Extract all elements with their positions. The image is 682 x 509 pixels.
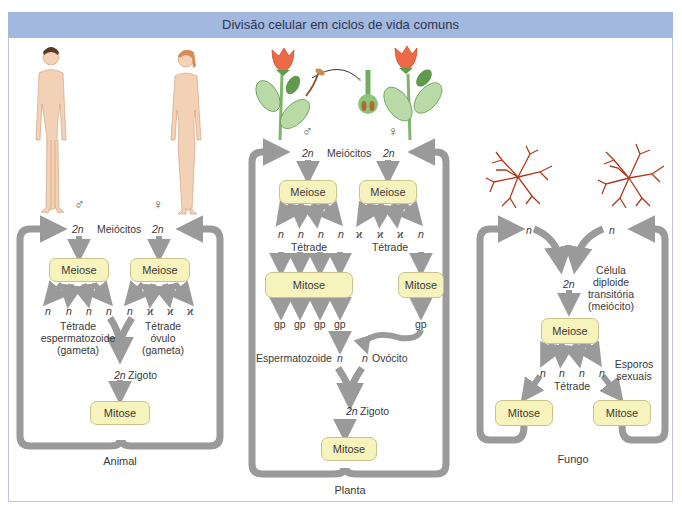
plant-female-meiose-box: Meiose	[359, 180, 417, 204]
fungus-haploid: n	[559, 367, 565, 379]
polar-body: ϰ	[147, 305, 153, 317]
fungus-diploid-l4: (meiócito)	[588, 300, 634, 312]
animal-female-2n: 2n	[152, 223, 164, 235]
animal-haploid: n	[86, 305, 92, 317]
plant-haploid: n	[338, 228, 344, 240]
female-human-figure-icon	[171, 50, 201, 214]
plant-sperm-n: n	[337, 352, 343, 364]
male-symbol: ♂	[74, 196, 85, 212]
plant-egg-n: n	[362, 352, 368, 364]
plant-meiocytes-label: Meiócitos	[327, 147, 371, 159]
plant-female-2n: 2n	[383, 147, 395, 159]
fungus-haploid: n	[579, 367, 585, 379]
plant-gp: gp	[294, 318, 306, 330]
animal-male-tetrad-l3: (gameta)	[57, 344, 99, 356]
female-symbol: ♀	[153, 196, 164, 212]
plant-gp: gp	[274, 318, 286, 330]
plant-haploid: n	[298, 228, 304, 240]
fungus-left-mitose-box: Mitose	[495, 400, 553, 426]
pollen-grain-icon	[306, 67, 326, 96]
plant-haploid: n	[278, 228, 284, 240]
plant-female-mitose-box: Mitose	[398, 272, 444, 298]
fungus-haploid: n	[540, 367, 546, 379]
diagram-graphics	[0, 0, 682, 509]
plant-gp: gp	[334, 318, 346, 330]
fungus-caption: Fungo	[557, 453, 588, 465]
animal-zygote-2n: 2n	[114, 369, 126, 381]
animal-female-tetrad-l1: Tétrade	[145, 320, 181, 332]
plant-egg-label: Ovócito	[372, 352, 408, 364]
plant-male-mitose-box: Mitose	[265, 272, 353, 298]
fungus-left-n: n	[526, 224, 532, 236]
animal-male-tetrad-l2: espermatozoide	[41, 332, 116, 344]
plant-haploid: n	[318, 228, 324, 240]
fungus-haploid: n	[599, 367, 605, 379]
animal-meiocytes-label: Meiócitos	[97, 223, 141, 235]
animal-zygote-label: Zigoto	[128, 369, 157, 381]
animal-haploid: n	[106, 305, 112, 317]
male-human-figure-icon	[36, 47, 66, 213]
polar-body: ϰ	[167, 305, 173, 317]
fungus-2n: 2n	[563, 278, 575, 290]
plant-caption: Planta	[334, 484, 365, 496]
fungal-mycelium-left-icon	[486, 146, 552, 208]
fungus-diploid-l1: Célula	[596, 264, 626, 276]
plant-male-2n: 2n	[302, 147, 314, 159]
animal-caption: Animal	[103, 455, 137, 467]
animal-male-meiose-box: Meiose	[49, 258, 109, 282]
animal-haploid: n	[127, 305, 133, 317]
plant-female-tetrad: Tétrade	[372, 241, 408, 253]
plant-degenerate: ϰ	[377, 228, 383, 240]
plant-gp: gp	[314, 318, 326, 330]
animal-haploid: n	[66, 305, 72, 317]
plant-mitose-box: Mitose	[321, 437, 377, 461]
plant-male-meiose-box: Meiose	[279, 180, 337, 204]
fungus-diploid-l3: transitória	[588, 288, 634, 300]
animal-female-meiose-box: Meiose	[130, 258, 190, 282]
plant-sperm-label: Espermatozoide	[256, 352, 332, 364]
plant-gp: gp	[415, 318, 427, 330]
fungus-right-mitose-box: Mitose	[593, 400, 651, 426]
plant-zygote-2n: 2n	[346, 405, 358, 417]
fungus-tetrad: Tétrade	[554, 380, 590, 392]
plant-degenerate: ϰ	[356, 228, 362, 240]
plant-female-symbol: ♀	[388, 123, 399, 139]
plant-male-tetrad: Tétrade	[291, 241, 327, 253]
plant-zygote-label: Zigoto	[360, 405, 389, 417]
animal-female-tetrad-l3: (gameta)	[142, 344, 184, 356]
animal-female-tetrad-l2: óvulo	[150, 332, 175, 344]
animal-male-tetrad-l1: Tétrade	[60, 320, 96, 332]
pistil-ovary-icon	[358, 70, 378, 114]
animal-male-2n: 2n	[72, 223, 84, 235]
fungus-spores-l2: sexuais	[616, 370, 652, 382]
fungus-meiose-box: Meiose	[541, 318, 599, 344]
fungus-right-n: n	[609, 224, 615, 236]
plant-male-symbol: ♂	[302, 123, 313, 139]
plant-degenerate: ϰ	[397, 228, 403, 240]
fungus-spores-l1: Esporos	[615, 358, 654, 370]
animal-mitose-box: Mitose	[90, 401, 150, 425]
fungus-diploid-l2: diploide	[593, 276, 629, 288]
polar-body: ϰ	[187, 305, 193, 317]
plant-haploid: n	[418, 228, 424, 240]
animal-haploid: n	[45, 305, 51, 317]
fungal-mycelium-right-icon	[598, 144, 664, 208]
